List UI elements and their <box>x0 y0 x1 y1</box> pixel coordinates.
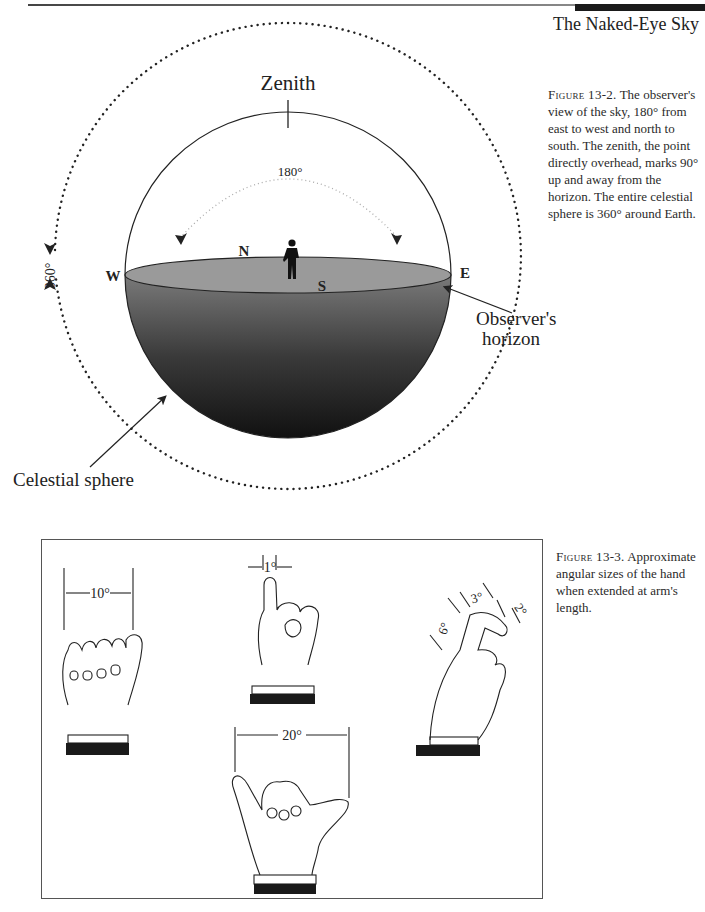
west-label: W <box>106 268 121 284</box>
label-180: 180° <box>278 164 303 179</box>
observers-horizon-label-2: horizon <box>482 328 541 349</box>
zenith-label: Zenith <box>261 71 316 95</box>
figure-13-2-caption-label: Figure 13-2. <box>548 87 617 102</box>
celestial-sphere-diagram: 360° Zenith 180° N S W E Observer's hori… <box>0 0 705 530</box>
celestial-sphere-pointer-arrow <box>90 397 165 467</box>
north-label: N <box>239 243 250 259</box>
figure-13-2-caption-text: The observer's view of the sky, 180° fro… <box>548 87 698 221</box>
south-label: S <box>318 278 326 294</box>
arrow-down-icon <box>44 243 56 255</box>
figure-13-2-caption: Figure 13-2. The observer's view of the … <box>548 86 703 222</box>
figure-13-3-caption: Figure 13-3. Approximate angular sizes o… <box>556 548 705 616</box>
label-360: 360° <box>43 263 58 290</box>
figure-13-3-caption-label: Figure 13-3. <box>556 549 625 564</box>
figure-13-3-frame <box>41 539 543 899</box>
east-label: E <box>460 265 470 281</box>
observers-horizon-label-1: Observer's <box>476 308 556 329</box>
arc-arrow-right-icon <box>391 233 402 245</box>
arc-arrow-left-icon <box>175 233 187 245</box>
celestial-sphere-label: Celestial sphere <box>13 469 134 490</box>
arc-180-dotted <box>180 179 398 238</box>
